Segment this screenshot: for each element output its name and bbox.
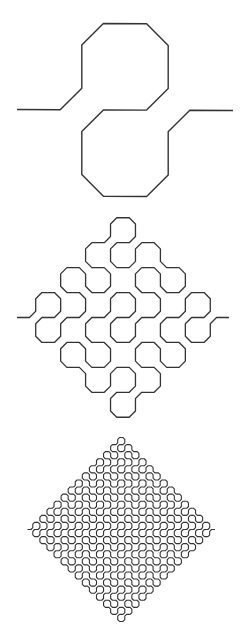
curve-iteration-3 <box>28 438 216 622</box>
curve-path <box>17 218 229 418</box>
curve-iteration-1 <box>17 24 233 197</box>
curve-iteration-2 <box>17 218 229 418</box>
peano-curve-diagram <box>0 0 242 638</box>
curve-path <box>17 24 233 197</box>
curve-path <box>28 438 216 622</box>
